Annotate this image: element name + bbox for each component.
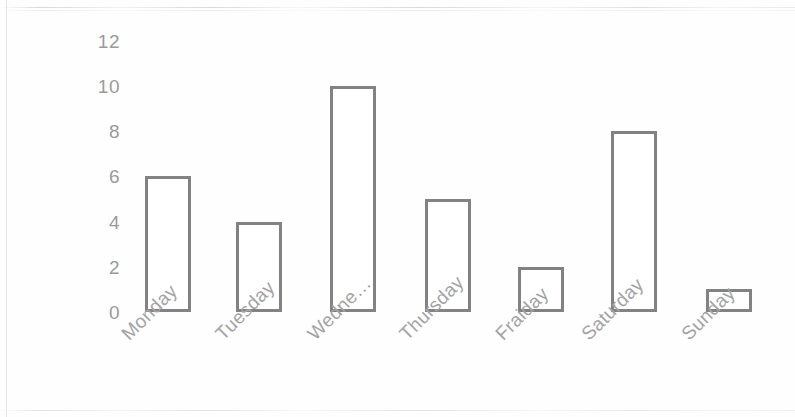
x-axis-category-labels: MondayTuesdayWedne…ThursdayFraidaySaturd… xyxy=(0,0,795,417)
bar-chart-figure: 121086420 MondayTuesdayWedne…ThursdayFra… xyxy=(0,0,795,417)
x-tick-label: Sunday xyxy=(678,283,738,343)
x-tick-label: Wedne… xyxy=(304,273,374,343)
x-tick-label: Thursday xyxy=(396,272,467,343)
plot-area: 121086420 MondayTuesdayWedne…ThursdayFra… xyxy=(0,0,795,417)
x-tick-label: Monday xyxy=(118,281,181,344)
x-tick-label: Fraiday xyxy=(492,284,552,344)
x-tick-label: Tuesday xyxy=(212,277,278,343)
x-tick-label: Saturday xyxy=(578,275,647,344)
